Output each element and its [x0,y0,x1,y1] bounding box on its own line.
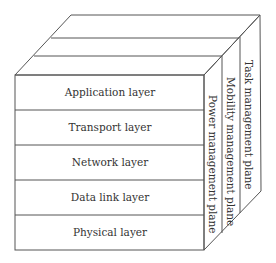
layer-physical: Physical layer [73,226,148,238]
layer-data-link: Data link layer [71,191,150,203]
plane-task-management: Task management plane [243,60,255,190]
layer-application: Application layer [64,86,157,98]
layer-transport: Transport layer [69,121,153,133]
plane-power-management: Power management plane [207,95,219,234]
layer-network: Network layer [72,156,149,168]
plane-mobility-management: Mobility management plane [225,77,237,226]
sensor-network-protocol-stack-diagram: Application layer Transport layer Networ… [0,0,276,263]
cube-top-face [15,15,260,75]
